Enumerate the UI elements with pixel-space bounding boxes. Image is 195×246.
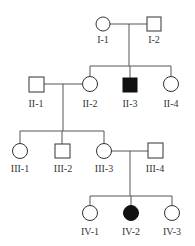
label-IV-3: IV-3 bbox=[163, 226, 181, 237]
individual-II-2 bbox=[83, 77, 98, 92]
label-I-2: I-2 bbox=[148, 34, 160, 45]
label-I-1: I-1 bbox=[97, 34, 109, 45]
individual-II-1 bbox=[29, 77, 44, 92]
individual-IV-2-affected bbox=[124, 206, 139, 221]
individual-IV-3 bbox=[165, 206, 180, 221]
label-III-2: III-2 bbox=[54, 163, 72, 174]
label-IV-2: IV-2 bbox=[122, 226, 140, 237]
individual-IV-1 bbox=[83, 206, 98, 221]
pedigree-chart: I-1 I-2 II-1 II-2 II-3 II-4 III-1 III-2 … bbox=[0, 0, 195, 246]
label-III-1: III-1 bbox=[11, 163, 29, 174]
label-IV-1: IV-1 bbox=[81, 226, 99, 237]
label-II-1: II-1 bbox=[29, 98, 44, 109]
label-III-3: III-3 bbox=[95, 163, 113, 174]
individual-II-4 bbox=[164, 77, 179, 92]
individual-II-3-affected bbox=[123, 78, 137, 92]
individual-III-3 bbox=[97, 144, 112, 159]
individual-III-1 bbox=[13, 144, 28, 159]
individual-I-2 bbox=[147, 17, 161, 31]
label-III-4: III-4 bbox=[146, 163, 164, 174]
individual-III-4 bbox=[148, 143, 163, 158]
label-II-2: II-2 bbox=[83, 98, 98, 109]
individual-III-2 bbox=[55, 144, 70, 158]
label-II-4: II-4 bbox=[164, 98, 179, 109]
label-II-3: II-3 bbox=[123, 98, 138, 109]
individual-I-1 bbox=[96, 17, 110, 31]
